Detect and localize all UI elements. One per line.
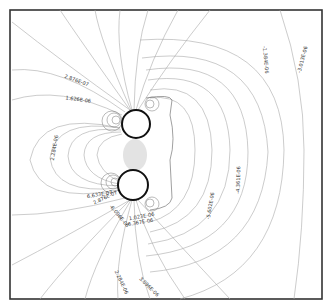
contour-plot: 2.876E-071.626E-062.284E-06-1.384E-06-3.… xyxy=(0,0,331,307)
contour-label: -4.361E-06 xyxy=(235,166,242,194)
upper-conductor-circle xyxy=(122,110,150,138)
plot-frame xyxy=(10,10,322,299)
lower-conductor-circle xyxy=(118,170,148,200)
gap-shading xyxy=(123,139,147,171)
